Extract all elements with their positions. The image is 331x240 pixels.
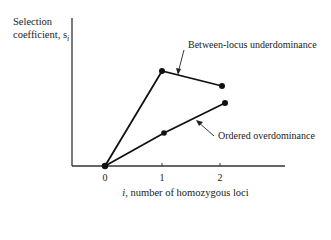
data-point-under-1: [159, 68, 165, 74]
x-axis-label: i, number of homozygous loci: [0, 187, 331, 198]
series-label-underdominance: Between-locus underdominance: [188, 39, 317, 50]
data-point-over-2: [222, 100, 228, 106]
data-point-origin: [102, 163, 108, 169]
series-underdominance-line: [105, 71, 222, 166]
data-point-under-2: [219, 83, 225, 89]
x-axis-label-text: , number of homozygous loci: [125, 187, 248, 198]
x-tick-label-1: 1: [152, 172, 172, 183]
x-tick-label-0: 0: [95, 172, 115, 183]
x-tick-label-2: 2: [210, 172, 230, 183]
data-point-over-1: [161, 130, 167, 136]
series-label-overdominance: Ordered overdominance: [218, 130, 315, 141]
